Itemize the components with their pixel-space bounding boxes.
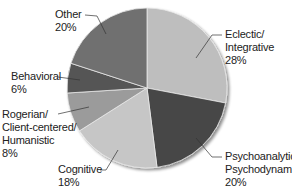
label-rogerian-line2: Client-centered/ <box>2 121 76 134</box>
label-other-name: Other <box>55 8 82 21</box>
label-other-pct: 20% <box>55 21 82 34</box>
label-psychoanalytic-line1: Psychoanalytic/ <box>225 150 292 163</box>
label-behavioral: Behavioral 6% <box>11 70 61 96</box>
label-eclectic-pct: 28% <box>225 54 274 67</box>
pie-slices <box>67 8 227 168</box>
label-cognitive-name: Cognitive <box>58 163 102 176</box>
label-psychoanalytic-line2: Psychodynamic <box>225 163 292 176</box>
label-cognitive-pct: 18% <box>58 176 102 189</box>
label-rogerian-pct: 8% <box>2 147 76 160</box>
label-eclectic-line2: Integrative <box>225 41 274 54</box>
pie-slice-eclectic-integrative <box>147 8 227 103</box>
label-behavioral-pct: 6% <box>11 83 61 96</box>
label-eclectic-line1: Eclectic/ <box>225 28 274 41</box>
label-rogerian-line1: Rogerian/ <box>2 108 76 121</box>
label-psychoanalytic-pct: 20% <box>225 176 292 189</box>
label-behavioral-name: Behavioral <box>11 70 61 83</box>
label-rogerian: Rogerian/ Client-centered/ Humanistic 8% <box>2 108 76 160</box>
label-eclectic: Eclectic/ Integrative 28% <box>225 28 274 67</box>
label-other: Other 20% <box>55 8 82 34</box>
label-cognitive: Cognitive 18% <box>58 163 102 189</box>
label-rogerian-line3: Humanistic <box>2 134 76 147</box>
label-psychoanalytic: Psychoanalytic/ Psychodynamic 20% <box>225 150 292 189</box>
